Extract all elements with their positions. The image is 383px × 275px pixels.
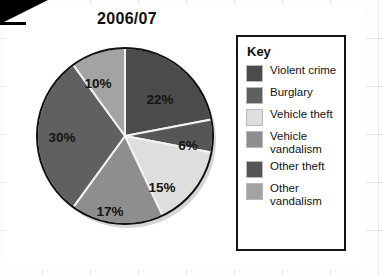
legend-swatch (246, 65, 263, 82)
pie-slice-label: 30% (48, 130, 75, 145)
legend-label-line: Vehicle theft (270, 108, 333, 121)
pie-slice-label: 6% (178, 138, 198, 153)
legend-swatch (246, 131, 263, 148)
legend-item-label: Othervandalism (270, 182, 322, 208)
legend-items: Violent crimeBurglaryVehicle theftVehicl… (246, 64, 338, 208)
legend-heading: Key (247, 44, 338, 59)
chart-title: 2006/07 (52, 10, 202, 28)
legend-item-label: Burglary (270, 86, 313, 99)
pie-chart: 22%6%15%17%30%10% (30, 42, 220, 234)
legend-label-line: Violent crime (270, 64, 336, 77)
legend-swatch (246, 109, 263, 126)
page-corner-edge (0, 22, 26, 25)
screenshot-stage: 2006/07 22%6%15%17%30%10% Key Violent cr… (0, 0, 383, 275)
pie-slice-label: 15% (148, 180, 175, 195)
legend-label-line: vandalism (270, 195, 322, 208)
pie-chart-svg: 22%6%15%17%30%10% (30, 42, 220, 234)
legend-item: Burglary (246, 86, 338, 104)
legend-label-line: Other (270, 182, 322, 195)
chart-legend: Key Violent crimeBurglaryVehicle theftVe… (236, 35, 346, 251)
legend-item: Violent crime (246, 64, 338, 82)
legend-label-line: vandalism (270, 143, 322, 156)
legend-label-line: Vehicle (270, 130, 322, 143)
legend-item-label: Violent crime (270, 64, 336, 77)
legend-label-line: Other theft (270, 160, 324, 173)
legend-label-line: Burglary (270, 86, 313, 99)
page-corner-fold-icon (0, 0, 52, 24)
legend-item-label: Vehiclevandalism (270, 130, 322, 156)
legend-swatch (246, 183, 263, 200)
pie-slice-label: 10% (84, 76, 111, 91)
legend-item: Other theft (246, 160, 338, 178)
pie-slice-label: 22% (146, 92, 173, 107)
legend-swatch (246, 87, 263, 104)
legend-item-label: Vehicle theft (270, 108, 333, 121)
legend-item-label: Other theft (270, 160, 324, 173)
legend-item: Vehicle theft (246, 108, 338, 126)
legend-swatch (246, 161, 263, 178)
legend-item: Othervandalism (246, 182, 338, 208)
legend-item: Vehiclevandalism (246, 130, 338, 156)
pie-slice-label: 17% (96, 204, 123, 219)
